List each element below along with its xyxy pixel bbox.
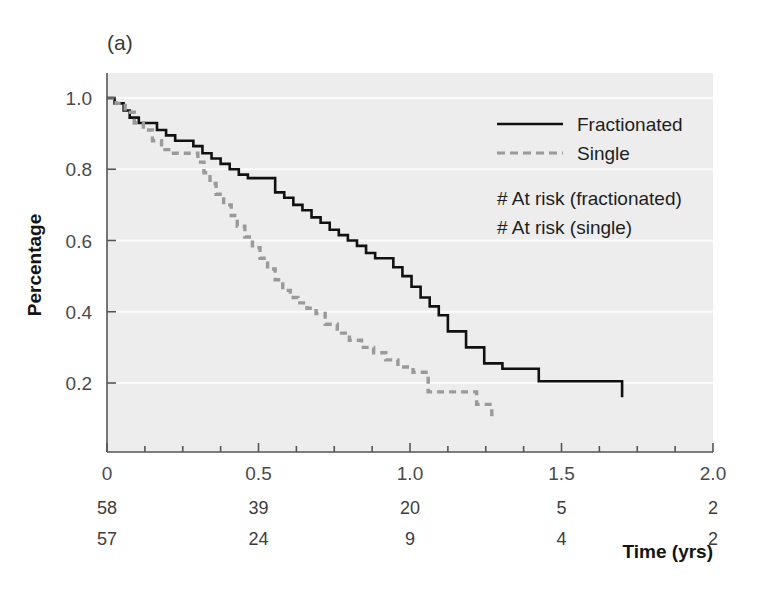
legend-label-at-risk-single: # At risk (single) bbox=[497, 217, 632, 238]
risk-value: 20 bbox=[400, 498, 420, 518]
x-tick-label: 0 bbox=[102, 463, 113, 484]
x-tick-label: 2.0 bbox=[700, 463, 726, 484]
risk-value: 39 bbox=[248, 498, 268, 518]
risk-value: 2 bbox=[708, 529, 718, 549]
panel-label: (a) bbox=[107, 31, 133, 54]
risk-value: 5 bbox=[556, 498, 566, 518]
risk-value: 58 bbox=[97, 498, 117, 518]
survival-curve-figure: (a) 0.20.40.60.81.0 00.51.01.52.0 Percen… bbox=[0, 0, 757, 595]
x-tick-label: 1.0 bbox=[397, 463, 423, 484]
y-tick-label: 0.8 bbox=[66, 159, 92, 180]
legend-label-single: Single bbox=[577, 143, 630, 164]
risk-value: 2 bbox=[708, 498, 718, 518]
y-tick-label: 0.4 bbox=[66, 302, 93, 323]
legend-label-fractionated: Fractionated bbox=[577, 114, 683, 135]
y-axis-title: Percentage bbox=[24, 214, 45, 316]
x-tick-label: 0.5 bbox=[245, 463, 271, 484]
y-tick-label: 0.6 bbox=[66, 231, 92, 252]
y-tick-label: 1.0 bbox=[66, 88, 92, 109]
risk-value: 9 bbox=[405, 529, 415, 549]
x-axis-title: Time (yrs) bbox=[623, 541, 713, 562]
risk-value: 24 bbox=[248, 529, 268, 549]
risk-value: 57 bbox=[97, 529, 117, 549]
x-tick-label: 1.5 bbox=[548, 463, 574, 484]
risk-value: 4 bbox=[556, 529, 566, 549]
y-tick-label: 0.2 bbox=[66, 373, 92, 394]
legend-label-at-risk-fractionated: # At risk (fractionated) bbox=[497, 188, 682, 209]
